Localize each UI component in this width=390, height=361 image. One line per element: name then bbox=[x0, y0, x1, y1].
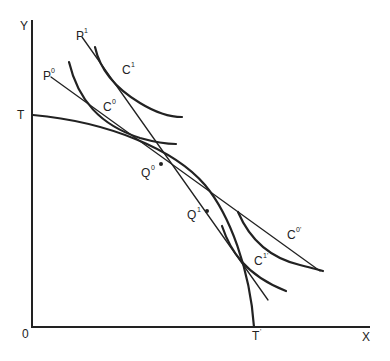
svg-text:1: 1 bbox=[84, 27, 88, 34]
svg-text:0': 0' bbox=[296, 226, 301, 233]
indifference-curve-c0-label: C 0 bbox=[103, 98, 116, 114]
svg-text:1': 1' bbox=[263, 252, 268, 259]
production-frontier-curve bbox=[33, 115, 254, 327]
price-line-p1-label: P 1 bbox=[76, 27, 88, 43]
indifference-curve-c1-label: C 1 bbox=[122, 61, 135, 77]
svg-text:P: P bbox=[43, 69, 51, 83]
svg-text:C: C bbox=[254, 254, 263, 268]
svg-text:Q: Q bbox=[141, 166, 150, 180]
y-axis-label: Y bbox=[20, 19, 28, 33]
frontier-label-t: T bbox=[17, 108, 25, 122]
production-point-q1 bbox=[205, 209, 209, 213]
indifference-curve-c1-prime-label: C 1' bbox=[254, 252, 268, 268]
svg-text:0: 0 bbox=[51, 67, 55, 74]
svg-text:': ' bbox=[260, 328, 261, 335]
svg-text:0: 0 bbox=[151, 164, 155, 171]
indifference-curve-c0-prime-label: C 0' bbox=[287, 226, 301, 242]
production-point-q1-label: Q 1 bbox=[187, 206, 201, 222]
production-point-q0 bbox=[159, 162, 163, 166]
svg-text:C: C bbox=[103, 100, 112, 114]
frontier-label-t-prime: T ' bbox=[252, 328, 261, 343]
svg-text:P: P bbox=[76, 29, 84, 43]
svg-text:Q: Q bbox=[187, 208, 196, 222]
svg-text:0: 0 bbox=[112, 98, 116, 105]
svg-text:1: 1 bbox=[131, 61, 135, 68]
svg-text:1: 1 bbox=[197, 206, 201, 213]
svg-text:T: T bbox=[252, 329, 260, 343]
svg-text:C: C bbox=[122, 63, 131, 77]
svg-text:C: C bbox=[287, 228, 296, 242]
trade-diagram: Y X 0 T T ' P 0 P 1 C 0 C 1 C 0' C 1' bbox=[0, 0, 390, 361]
price-line-p0-label: P 0 bbox=[43, 67, 55, 83]
production-point-q0-label: Q 0 bbox=[141, 164, 155, 180]
origin-label: 0 bbox=[22, 327, 29, 341]
x-axis-label: X bbox=[362, 330, 370, 344]
